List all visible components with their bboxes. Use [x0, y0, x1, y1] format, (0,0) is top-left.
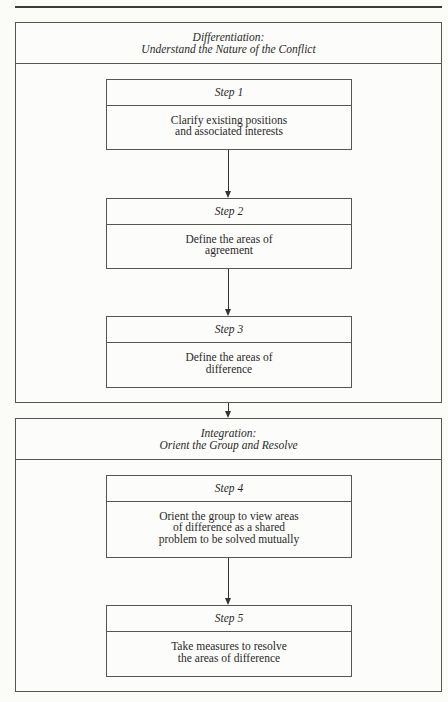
step-description: Clarify existing positions and associate… [107, 105, 351, 149]
step-2-box: Step 2 Define the areas of agreement [106, 198, 352, 269]
step-text-line: Take measures to resolve [171, 641, 287, 653]
phase-subtitle: Orient the Group and Resolve [16, 439, 441, 451]
phase-title: Integration: [16, 427, 441, 439]
step-text-line: the areas of difference [178, 653, 280, 665]
step-text-line: problem to be solved mutually [159, 534, 300, 546]
arrow-connector [228, 269, 229, 309]
step-label: Step 2 [107, 199, 351, 225]
step-text-line: and associated interests [175, 126, 283, 138]
step-description: Take measures to resolve the areas of di… [107, 631, 351, 676]
arrow-connector [228, 558, 229, 598]
arrow-head-icon [225, 191, 231, 198]
step-label: Step 3 [107, 317, 351, 343]
step-text-line: agreement [205, 245, 253, 257]
step-label: Step 5 [107, 606, 351, 632]
phase-header: Differentiation: Understand the Nature o… [16, 23, 441, 64]
step-5-box: Step 5 Take measures to resolve the area… [106, 605, 352, 677]
step-label: Step 1 [107, 80, 351, 106]
arrow-connector [228, 403, 229, 411]
phase-header: Integration: Orient the Group and Resolv… [16, 419, 441, 460]
step-description: Define the areas of difference [107, 342, 351, 387]
step-description: Orient the group to view areas of differ… [107, 501, 351, 557]
step-4-box: Step 4 Orient the group to view areas of… [106, 475, 352, 558]
step-1-box: Step 1 Clarify existing positions and as… [106, 79, 352, 150]
arrow-connector [228, 150, 229, 191]
step-3-box: Step 3 Define the areas of difference [106, 316, 352, 388]
arrow-head-icon [225, 309, 231, 316]
step-text-line: difference [206, 364, 252, 376]
step-label: Step 4 [107, 476, 351, 502]
arrow-head-icon [225, 598, 231, 605]
arrow-head-icon [225, 411, 231, 418]
top-rule [15, 6, 442, 8]
step-description: Define the areas of agreement [107, 224, 351, 268]
step-text-line: Define the areas of [185, 352, 272, 364]
phase-title: Differentiation: [16, 31, 441, 43]
phase-subtitle: Understand the Nature of the Conflict [16, 43, 441, 55]
